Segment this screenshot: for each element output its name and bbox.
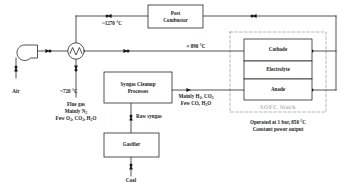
syngas-cleanup-label-line2: Processes xyxy=(121,88,156,95)
air-inlet-label: Air xyxy=(12,88,19,95)
post-combustor-label-line1: Post xyxy=(163,9,188,16)
junction-dot-blower-out xyxy=(49,50,52,53)
combustor-outlet-temp-label: ~1270 °C xyxy=(102,20,122,27)
flue-gas-line2-sub: 2 xyxy=(85,111,87,115)
flue-gas-line3-a-sub: 2 xyxy=(70,118,72,122)
cathode-inlet-temp-label: ≈ 890 °C xyxy=(187,43,206,50)
anode-label: Anode xyxy=(271,86,285,93)
flue-gas-composition-label: Flue gas Mainly N2 Few O2, CO2, H2O xyxy=(56,101,97,121)
junction-dot-hx-air xyxy=(127,50,130,53)
sofc-stack-watermark: SOFC Stack xyxy=(260,103,296,110)
syngas-cleanup-label-line1: Syngas Cleanup xyxy=(121,80,156,87)
clean-syngas-line1-a-sub: 2 xyxy=(199,96,201,100)
heat-exchanger-icon xyxy=(68,43,84,59)
post-combustor-label-line2: Combustor xyxy=(163,17,188,24)
coal-inlet-label: Coal xyxy=(126,177,136,184)
gasifier-label: Gasifier xyxy=(123,141,141,148)
clean-syngas-line1: Mainly H2, CO2 xyxy=(179,93,214,100)
clean-syngas-line1-a: Mainly H xyxy=(179,93,200,99)
process-flow-diagram: Post Combustor Syngas Cleanup Processes … xyxy=(0,0,349,185)
sofc-note-line1: Operated at 1 bar, 850 °C xyxy=(250,119,306,126)
preheated-air-temp-label: ~720 °C xyxy=(60,88,77,95)
flue-gas-line3-d: O xyxy=(92,115,96,121)
junction-dot-combustor-feed xyxy=(251,15,254,18)
cathode-label: Cathode xyxy=(269,46,287,53)
flue-gas-line3-b: , CO xyxy=(72,115,82,121)
electrolyte-label: Electrolyte xyxy=(266,66,290,73)
syngas-cleanup-label: Syngas Cleanup Processes xyxy=(121,80,156,94)
flue-gas-line1: Flue gas xyxy=(56,101,97,108)
sofc-stack-operating-note: Operated at 1 bar, 850 °C Constant power… xyxy=(250,119,306,132)
flue-gas-line3-a: Few O xyxy=(56,115,70,121)
flue-gas-line3-c: , H xyxy=(84,115,91,121)
junction-dot-coal xyxy=(130,164,133,167)
clean-syngas-line2: Few CO, H2O xyxy=(179,100,214,107)
sofc-note-line2: Constant power output xyxy=(250,126,306,133)
clean-syngas-line1-b: , CO xyxy=(201,93,211,99)
clean-syngas-arrow xyxy=(186,88,191,92)
clean-syngas-line2-a: Few CO, H xyxy=(181,100,206,106)
gasifier-label-line1: Gasifier xyxy=(123,141,141,148)
flue-gas-line2-text: Mainly N xyxy=(65,108,86,114)
clean-syngas-line2-a-sub: 2 xyxy=(205,103,207,107)
flue-gas-line3: Few O2, CO2, H2O xyxy=(56,115,97,122)
clean-syngas-line1-b-sub: 2 xyxy=(212,96,214,100)
post-combustor-label: Post Combustor xyxy=(163,9,188,23)
junction-dot-flue-out xyxy=(75,69,78,72)
air-blower-icon xyxy=(17,45,37,60)
junction-dot-raw-syngas xyxy=(130,115,133,118)
junction-dot-air-in xyxy=(15,66,18,69)
clean-syngas-composition-label: Mainly H2, CO2 Few CO, H2O xyxy=(179,93,214,107)
flow-lines-layer xyxy=(0,0,349,185)
clean-syngas-line2-b: O xyxy=(207,100,211,106)
flue-gas-line2: Mainly N2 xyxy=(56,108,97,115)
junction-dot-combustor-return xyxy=(106,15,109,18)
flue-gas-line3-c-sub: 2 xyxy=(91,118,93,122)
raw-syngas-label: Raw syngas xyxy=(136,113,162,120)
